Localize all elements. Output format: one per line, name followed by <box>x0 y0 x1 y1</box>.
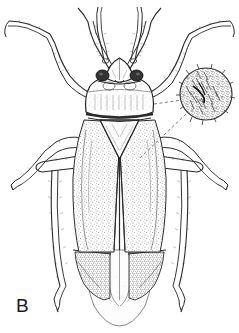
compound-eye-right <box>130 70 143 81</box>
compound-eye-left <box>96 70 109 81</box>
plant-bug-illustration <box>0 0 239 333</box>
panel-label: B <box>16 296 29 315</box>
figure-panel: B <box>0 0 239 333</box>
